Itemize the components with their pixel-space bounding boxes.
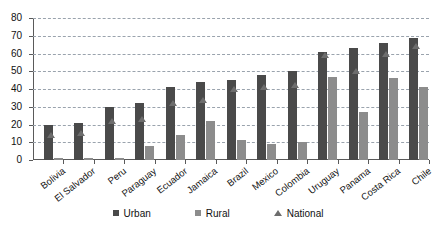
y-tick-label: 0 (0, 155, 22, 165)
y-tick-mark (29, 142, 33, 143)
bar-urban (166, 87, 175, 160)
chart-legend: UrbanRuralNational (0, 205, 436, 221)
x-tick-mark (63, 160, 64, 164)
x-tick-label: Brazil (225, 166, 250, 189)
y-tick-mark (29, 125, 33, 126)
bar-rural (328, 77, 337, 160)
bar-rural (237, 140, 246, 160)
marker-national (77, 130, 85, 136)
bar-urban (44, 125, 53, 161)
marker-national (199, 97, 207, 103)
x-tick-mark (94, 160, 95, 164)
bar-group (41, 18, 71, 160)
x-tick-mark (155, 160, 156, 164)
bar-group (376, 18, 406, 160)
bar-group (163, 18, 193, 160)
y-tick-mark (29, 89, 33, 90)
x-tick-label: Jamaica (185, 166, 219, 196)
x-tick-label: Ecuador (155, 166, 189, 196)
bar-rural (419, 87, 428, 160)
plot-area: 01020304050607080 (33, 18, 429, 160)
y-tick-label: 40 (0, 84, 22, 94)
x-tick-mark (307, 160, 308, 164)
marker-national (321, 52, 329, 58)
x-tick-mark (338, 160, 339, 164)
bar-group (132, 18, 162, 160)
bar-urban (227, 80, 236, 160)
bar-rural (145, 146, 154, 160)
marker-national (138, 116, 146, 122)
x-axis-labels: BoliviaEl SalvadorPeruParaguayEcuadorJam… (33, 160, 429, 206)
y-tick-mark (29, 107, 33, 108)
y-tick-mark (29, 54, 33, 55)
x-tick-mark (399, 160, 400, 164)
legend-label: Rural (206, 208, 230, 219)
x-tick-mark (277, 160, 278, 164)
bar-group (254, 18, 284, 160)
marker-national (382, 51, 390, 57)
y-tick-mark (29, 36, 33, 37)
bar-urban (135, 103, 144, 160)
bar-rural (389, 78, 398, 160)
bar-rural (298, 142, 307, 160)
triangle-marker-icon (274, 210, 282, 216)
y-tick-label: 80 (0, 13, 22, 23)
x-tick-label: Colombia (273, 166, 311, 199)
y-tick-mark (29, 71, 33, 72)
bar-urban (196, 82, 205, 160)
bar-urban (379, 43, 388, 160)
bar-group (102, 18, 132, 160)
y-tick-mark (29, 18, 33, 19)
x-tick-mark (185, 160, 186, 164)
marker-national (47, 132, 55, 138)
x-tick-mark (429, 160, 430, 164)
legend-item[interactable]: Rural (195, 208, 230, 219)
bar-urban (349, 48, 358, 160)
bar-rural (267, 144, 276, 160)
legend-item[interactable]: National (274, 208, 324, 219)
x-tick-mark (124, 160, 125, 164)
marker-national (108, 118, 116, 124)
square-marker-icon (113, 210, 119, 216)
y-tick-label: 20 (0, 120, 22, 130)
x-tick-mark (368, 160, 369, 164)
marker-national (230, 86, 238, 92)
y-tick-label: 70 (0, 31, 22, 41)
square-marker-icon (195, 210, 201, 216)
bar-rural (176, 135, 185, 160)
bar-urban (74, 123, 83, 160)
bar-group (406, 18, 436, 160)
bar-urban (105, 107, 114, 160)
marker-national (260, 84, 268, 90)
bar-rural (206, 121, 215, 160)
y-tick-label: 10 (0, 137, 22, 147)
bar-chart: 01020304050607080 BoliviaEl SalvadorPeru… (0, 0, 436, 226)
legend-label: Urban (124, 208, 151, 219)
bar-group (71, 18, 101, 160)
y-tick-label: 30 (0, 102, 22, 112)
bar-urban (318, 52, 327, 160)
bar-group (346, 18, 376, 160)
bar-group (193, 18, 223, 160)
x-tick-mark (216, 160, 217, 164)
marker-national (352, 68, 360, 74)
marker-national (412, 43, 420, 49)
marker-national (291, 82, 299, 88)
bar-rural (359, 112, 368, 160)
legend-item[interactable]: Urban (113, 208, 151, 219)
bar-group (285, 18, 315, 160)
y-tick-label: 60 (0, 49, 22, 59)
bar-urban (409, 38, 418, 160)
bar-group (315, 18, 345, 160)
legend-label: National (287, 208, 324, 219)
x-tick-mark (246, 160, 247, 164)
bar-group (224, 18, 254, 160)
marker-national (169, 100, 177, 106)
x-tick-label: Chile (409, 166, 432, 187)
x-tick-label: Peru (106, 166, 128, 186)
x-tick-label: Uruguay (307, 166, 341, 196)
y-tick-label: 50 (0, 66, 22, 76)
